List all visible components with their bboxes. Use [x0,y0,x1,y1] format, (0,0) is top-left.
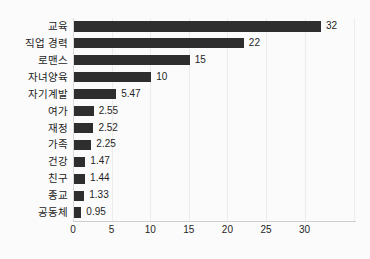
category-label: 종교 [48,187,68,204]
category-label: 자기계발 [28,86,68,103]
x-tick-label: 30 [299,224,310,235]
bar-value-label: 1.44 [90,170,109,187]
category-label: 가족 [48,136,68,153]
bar-row[interactable]: 건강1.47 [0,153,370,170]
x-tick-label: 15 [183,224,194,235]
x-axis-line [73,221,356,222]
bar-row[interactable]: 공동체0.95 [0,204,370,221]
bar-value-label: 0.95 [86,204,105,221]
bar-value-label: 2.25 [96,136,115,153]
bar[interactable] [74,191,84,201]
x-tick-label: 5 [109,224,115,235]
category-label: 로맨스 [38,52,68,69]
bar[interactable] [74,72,151,82]
bar-value-label: 22 [249,35,260,52]
bar-value-label: 2.55 [99,103,118,120]
x-axis-tick-labels: 051015202530 [0,224,370,240]
bar[interactable] [74,174,85,184]
x-tick-label: 20 [222,224,233,235]
bar-value-label: 15 [195,52,206,69]
bar-row[interactable]: 자기계발5.47 [0,86,370,103]
bar[interactable] [74,55,190,65]
category-label: 공동체 [38,204,68,221]
bar-chart-figure: 교육32직업 경력22로맨스15자녀양육10자기계발5.47여가2.55재정2.… [0,0,370,259]
bar-value-label: 1.47 [90,153,109,170]
bar-value-label: 2.52 [98,120,117,137]
bar-row[interactable]: 직업 경력22 [0,35,370,52]
category-label: 건강 [48,153,68,170]
bar-row[interactable]: 여가2.55 [0,103,370,120]
bar-value-label: 32 [326,18,337,35]
category-label: 여가 [48,103,68,120]
bar-row[interactable]: 교육32 [0,18,370,35]
bar-value-label: 10 [156,69,167,86]
bar-row[interactable]: 가족2.25 [0,136,370,153]
bar-row[interactable]: 재정2.52 [0,120,370,137]
bar[interactable] [74,140,91,150]
bar-row[interactable]: 로맨스15 [0,52,370,69]
bar[interactable] [74,106,94,116]
category-label: 직업 경력 [25,35,68,52]
x-tick-label: 25 [260,224,271,235]
bar-value-label: 5.47 [121,86,140,103]
category-label: 자녀양육 [28,69,68,86]
bar-value-label: 1.33 [89,187,108,204]
category-label: 교육 [48,18,68,35]
bar[interactable] [74,123,93,133]
bar-rows: 교육32직업 경력22로맨스15자녀양육10자기계발5.47여가2.55재정2.… [0,18,370,221]
x-tick-label: 0 [70,224,76,235]
bar[interactable] [74,89,116,99]
bar-row[interactable]: 종교1.33 [0,187,370,204]
x-tick-label: 10 [145,224,156,235]
bar[interactable] [74,157,85,167]
category-label: 친구 [48,170,68,187]
bar[interactable] [74,21,321,31]
bar[interactable] [74,207,81,217]
bar-row[interactable]: 친구1.44 [0,170,370,187]
bar-row[interactable]: 자녀양육10 [0,69,370,86]
category-label: 재정 [48,120,68,137]
bar[interactable] [74,38,244,48]
